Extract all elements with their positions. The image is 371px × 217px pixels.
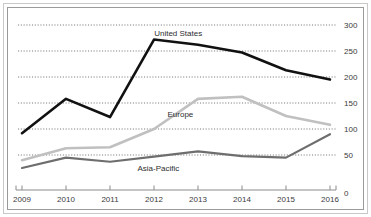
y-tick-label-150: 150 bbox=[344, 99, 358, 108]
y-tick-label-0: 0 bbox=[344, 189, 349, 198]
y-tick-label-100: 100 bbox=[344, 125, 358, 134]
series-label-united-states: United States bbox=[154, 29, 202, 38]
y-tick-label-300: 300 bbox=[344, 21, 358, 30]
x-tick-label-2015: 2015 bbox=[277, 195, 295, 204]
y-tick-label-200: 200 bbox=[344, 73, 358, 82]
series-lines-group bbox=[22, 40, 330, 168]
x-tick-label-2013: 2013 bbox=[189, 195, 207, 204]
x-tick-label-2014: 2014 bbox=[233, 195, 251, 204]
x-tick-label-2010: 2010 bbox=[57, 195, 75, 204]
x-tick-label-2011: 2011 bbox=[101, 195, 119, 204]
y-tick-label-250: 250 bbox=[344, 47, 358, 56]
line-chart-plot: 050100150200250300 200920102011201220132… bbox=[0, 0, 371, 217]
series-line-europe bbox=[22, 97, 330, 160]
x-tick-label-2012: 2012 bbox=[145, 195, 163, 204]
x-tick-label-2016: 2016 bbox=[321, 195, 339, 204]
series-label-europe: Europe bbox=[168, 110, 194, 119]
y-tick-label-50: 50 bbox=[344, 151, 353, 160]
y-tick-labels-group: 050100150200250300 bbox=[344, 21, 358, 198]
series-line-asia-pacific bbox=[22, 134, 330, 168]
x-axis-group bbox=[16, 186, 336, 191]
gridlines-group bbox=[18, 25, 336, 155]
chart-figure: 050100150200250300 200920102011201220132… bbox=[0, 0, 371, 217]
x-tick-labels-group: 20092010201120122013201420152016 bbox=[13, 195, 339, 204]
series-label-asia-pacific: Asia-Pacific bbox=[138, 164, 180, 173]
x-tick-label-2009: 2009 bbox=[13, 195, 31, 204]
